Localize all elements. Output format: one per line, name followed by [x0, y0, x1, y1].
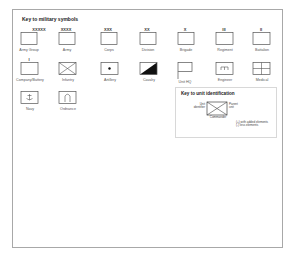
- svg-text:I: I: [28, 57, 29, 62]
- anchor-icon: [19, 86, 59, 108]
- army-icon: XXXX: [57, 27, 97, 49]
- symbol-label: Infantry: [48, 78, 88, 82]
- symbol-medical: Medical: [251, 57, 291, 85]
- svg-text:II: II: [260, 27, 262, 32]
- svg-text:XXX: XXX: [104, 27, 112, 32]
- symbol-ordnance: Ordnance: [57, 86, 97, 114]
- division-icon: XX: [138, 27, 178, 49]
- key-title: Key to military symbols: [22, 16, 78, 22]
- unit-identification-key: Key to unit identification Unit identifi…: [175, 87, 277, 138]
- svg-text:XXXX: XXXX: [61, 27, 72, 32]
- symbol-label: Company/Battery: [10, 78, 50, 82]
- parent-unit-label: Parent unit: [229, 103, 238, 110]
- symbol-label: Ordnance: [48, 107, 88, 111]
- symbol-label: Navy: [10, 107, 50, 111]
- ordnance-icon: [57, 86, 97, 108]
- symbol-label: Cavalry: [129, 78, 169, 82]
- svg-text:X: X: [184, 27, 187, 32]
- cavalry-icon: [138, 57, 178, 79]
- battalion-icon: II: [251, 27, 291, 49]
- army-group-icon: XXXXX: [19, 27, 59, 49]
- svg-text:III: III: [222, 27, 225, 32]
- engineer-icon: [214, 57, 254, 79]
- symbol-label: Army Group: [9, 48, 49, 52]
- regiment-icon: III: [214, 27, 254, 49]
- symbol-label: Army: [47, 48, 87, 52]
- svg-text:XXXXX: XXXXX: [32, 27, 46, 32]
- symbol-label: Corps: [89, 48, 129, 52]
- commander-label: Commander: [206, 116, 230, 119]
- unit-id-notes: (+) with added elements (-) less element…: [236, 121, 268, 128]
- infantry-icon: [57, 57, 97, 79]
- symbol-label: Division: [128, 48, 168, 52]
- symbol-label: Battalion: [242, 48, 282, 52]
- symbol-label: Medical: [242, 78, 282, 82]
- brigade-icon: X: [176, 27, 216, 49]
- symbol-label: Engineer: [205, 78, 245, 82]
- unit-identification-title: Key to unit identification: [181, 91, 235, 96]
- corps-icon: XXX: [99, 27, 139, 49]
- artillery-icon: [99, 57, 139, 79]
- company-battery-icon: I: [19, 57, 59, 79]
- medical-icon: [251, 57, 291, 79]
- svg-text:XX: XX: [144, 27, 150, 32]
- symbol-label: Brigade: [166, 48, 206, 52]
- symbol-label: Artillery: [90, 78, 130, 82]
- symbol-battalion: II Battalion: [251, 27, 291, 55]
- symbol-label: Unit HQ: [165, 80, 205, 84]
- unit-identifier-label: Unit identifier: [192, 103, 205, 110]
- symbol-label: Regiment: [205, 48, 245, 52]
